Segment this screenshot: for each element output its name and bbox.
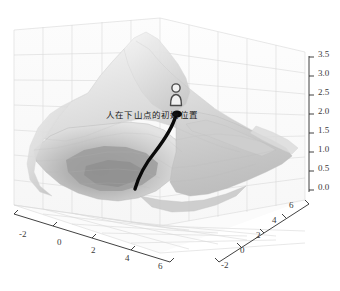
y-tick-6: 6 — [289, 201, 294, 210]
y-tick-2: 2 — [256, 231, 261, 240]
z-tick-3-5: 3.5 — [318, 50, 329, 59]
z-tick-0-5: 0.5 — [318, 164, 329, 173]
z-tick-0-0: 0.0 — [318, 183, 329, 192]
y-tick-0: 0 — [240, 246, 245, 255]
x-tick-0: 0 — [57, 238, 62, 247]
z-tick-3-0: 3.0 — [318, 69, 329, 78]
figure-3d-surface-plot: 3.5 3.0 2.5 2.0 1.5 1.0 0.5 0.0 -2 0 2 4… — [0, 0, 340, 291]
plot-canvas — [0, 0, 340, 291]
z-tick-1-5: 1.5 — [318, 126, 329, 135]
y-tick-neg2: -2 — [221, 261, 229, 270]
z-tick-2-0: 2.0 — [318, 107, 329, 116]
x-tick-6: 6 — [158, 262, 163, 271]
x-tick-4: 4 — [125, 254, 130, 263]
z-tick-1-0: 1.0 — [318, 145, 329, 154]
z-tick-2-5: 2.5 — [318, 88, 329, 97]
start-position-annotation: 人在下山点的初始位置 — [106, 111, 198, 120]
x-tick-2: 2 — [91, 246, 96, 255]
y-tick-4: 4 — [272, 216, 277, 225]
x-tick-neg2: -2 — [19, 230, 27, 239]
